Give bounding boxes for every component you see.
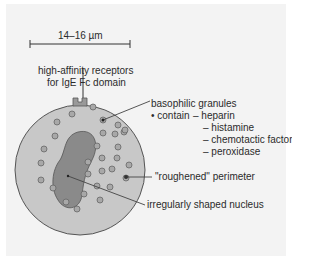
content-chemotactic: – chemotactic factors: [203, 134, 292, 146]
ige-receptor: [73, 98, 87, 106]
contain-label: • contain: [151, 110, 190, 122]
content-histamine: – histamine: [203, 122, 254, 134]
receptor-label-line1: high-affinity receptors: [38, 65, 133, 77]
scale-label: 14–16 µm: [58, 30, 103, 42]
content-heparin: – heparin: [193, 110, 235, 122]
content-peroxidase: – peroxidase: [203, 146, 260, 158]
receptor-label-line2: for IgE Fc domain: [47, 77, 126, 89]
granules-label: basophilic granules: [151, 98, 237, 110]
nucleus-label: irregularly shaped nucleus: [147, 199, 264, 211]
perimeter-label: "roughened" perimeter: [155, 171, 255, 183]
